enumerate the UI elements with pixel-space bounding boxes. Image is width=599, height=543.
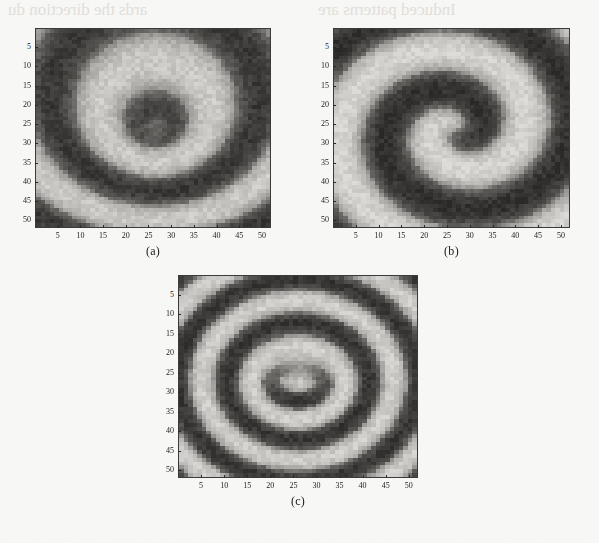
panel-b-ytick-10: 10: [313, 62, 329, 70]
panel-c-ytick-25: 25: [158, 369, 174, 377]
panel-c-xtick-40: 40: [354, 482, 372, 490]
panel-a-xtick-50: 50: [253, 232, 271, 240]
panel-c-ytick-5: 5: [158, 291, 174, 299]
panel-a-ytick-40: 40: [15, 178, 31, 186]
panel-c-interference-canvas: [179, 276, 417, 477]
panel-c-ytick-30: 30: [158, 388, 174, 396]
panel-b-ytick-40: 40: [313, 178, 329, 186]
panel-c-xtick-25: 25: [284, 482, 302, 490]
panel-b-xtick-45: 45: [529, 232, 547, 240]
panel-a-ytick-50: 50: [15, 216, 31, 224]
panel-c-ytick-10: 10: [158, 310, 174, 318]
panel-b-plot-image[interactable]: [333, 28, 570, 228]
panel-a-ytick-10: 10: [15, 62, 31, 70]
panel-c-xtick-10: 10: [215, 482, 233, 490]
panel-b-ytick-15: 15: [313, 82, 329, 90]
panel-b-xtick-20: 20: [415, 232, 433, 240]
panel-c-xtick-35: 35: [331, 482, 349, 490]
panel-a-ytick-45: 45: [15, 197, 31, 205]
panel-a-ytick-20: 20: [15, 101, 31, 109]
panel-b-ytick-25: 25: [313, 120, 329, 128]
panel-c-xtick-50: 50: [400, 482, 418, 490]
panel-a-xtick-45: 45: [230, 232, 248, 240]
panel-b-ytick-5: 5: [313, 43, 329, 51]
panel-a-xtick-25: 25: [139, 232, 157, 240]
panel-b-ytick-50: 50: [313, 216, 329, 224]
panel-a-xtick-5: 5: [49, 232, 67, 240]
panel-b-ytick-45: 45: [313, 197, 329, 205]
panel-c-ytick-45: 45: [158, 447, 174, 455]
panel-a-xtick-10: 10: [71, 232, 89, 240]
panel-a-ytick-30: 30: [15, 139, 31, 147]
panel-a-ytick-15: 15: [15, 82, 31, 90]
panel-c-xtick-20: 20: [261, 482, 279, 490]
showthrough-text-right: Induced patterns are: [318, 0, 456, 20]
panel-b-xtick-5: 5: [347, 232, 365, 240]
panel-c-xtick-5: 5: [192, 482, 210, 490]
panel-b-ytick-30: 30: [313, 139, 329, 147]
panel-b-xtick-25: 25: [438, 232, 456, 240]
panel-c-ytick-20: 20: [158, 349, 174, 357]
panel-c-ytick-35: 35: [158, 408, 174, 416]
panel-a-xtick-20: 20: [117, 232, 135, 240]
panel-a-caption: (a): [35, 244, 271, 259]
panel-b-xtick-40: 40: [506, 232, 524, 240]
panel-b-interference-canvas: [334, 29, 569, 227]
panel-a-xtick-30: 30: [162, 232, 180, 240]
panel-a-interference-canvas: [36, 29, 270, 227]
panel-b-ytick-20: 20: [313, 101, 329, 109]
page-showthrough-text: ards the direction du Induced patterns a…: [0, 0, 599, 24]
panel-a-ytick-25: 25: [15, 120, 31, 128]
panel-c-caption: (c): [178, 494, 418, 509]
panel-b-ytick-35: 35: [313, 159, 329, 167]
panel-b-xtick-15: 15: [392, 232, 410, 240]
panel-b-xtick-30: 30: [461, 232, 479, 240]
panel-c-xtick-15: 15: [238, 482, 256, 490]
panel-c-ytick-15: 15: [158, 330, 174, 338]
panel-a-ytick-5: 5: [15, 43, 31, 51]
panel-a-plot-image[interactable]: [35, 28, 271, 228]
panel-a: 51015202530354045505101520253035404550(a…: [35, 28, 271, 228]
panel-c-xtick-45: 45: [377, 482, 395, 490]
panel-c-plot-image[interactable]: [178, 275, 418, 478]
panel-a-xtick-40: 40: [208, 232, 226, 240]
panel-a-ytick-35: 35: [15, 159, 31, 167]
panel-b: 51015202530354045505101520253035404550(b…: [333, 28, 570, 228]
showthrough-text-left: ards the direction du: [8, 0, 147, 20]
panel-c-ytick-40: 40: [158, 427, 174, 435]
panel-b-xtick-50: 50: [552, 232, 570, 240]
panel-b-xtick-10: 10: [370, 232, 388, 240]
panel-a-xtick-15: 15: [94, 232, 112, 240]
panel-c-ytick-50: 50: [158, 466, 174, 474]
panel-b-xtick-35: 35: [484, 232, 502, 240]
panel-b-caption: (b): [333, 244, 570, 259]
panel-a-xtick-35: 35: [185, 232, 203, 240]
panel-c: 51015202530354045505101520253035404550(c…: [178, 275, 418, 478]
panel-c-xtick-30: 30: [307, 482, 325, 490]
